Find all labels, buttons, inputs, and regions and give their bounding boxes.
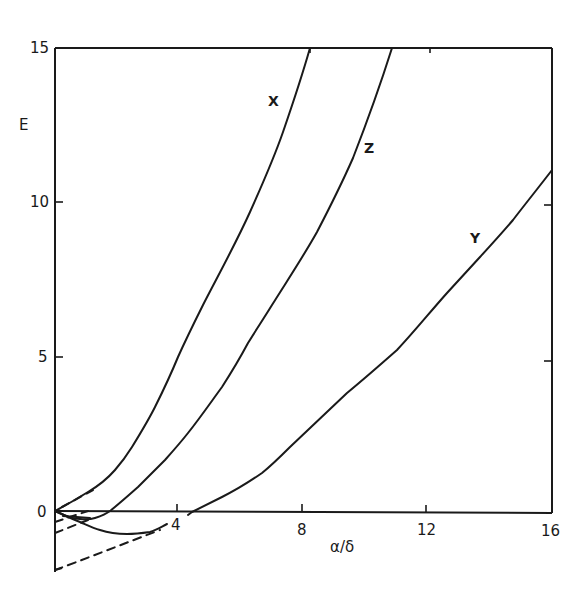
y-axis-label: E (19, 116, 28, 134)
x-axis (55, 511, 552, 513)
dashed-4-origin-stub (55, 568, 62, 570)
y-tick-0: 0 (37, 503, 47, 521)
curve-label-z: Z (364, 140, 374, 156)
dashed-3 (55, 520, 88, 533)
curves (55, 48, 552, 534)
x-tick-16: 16 (541, 522, 560, 540)
curve-dip (55, 511, 167, 534)
x-axis-label: α/δ (330, 538, 354, 556)
x-tick-12: 12 (417, 521, 436, 539)
curve-label-y: Y (469, 230, 481, 246)
z-short-stub (63, 516, 90, 518)
ticks (55, 48, 552, 512)
dashed-1 (62, 490, 93, 507)
y-tick-5: 5 (38, 348, 48, 366)
curve-x (55, 48, 310, 511)
curve-label-x: X (268, 93, 279, 109)
x-tick-4: 4 (171, 516, 181, 534)
curve-y (188, 170, 552, 515)
dashed-4 (55, 530, 160, 570)
x-tick-8: 8 (297, 521, 307, 539)
y-tick-15: 15 (30, 39, 49, 57)
y-tick-10: 10 (30, 193, 49, 211)
energy-chart: 15 10 5 0 4 8 12 16 E α/δ X Z Y (0, 0, 587, 602)
curve-z (55, 48, 392, 519)
